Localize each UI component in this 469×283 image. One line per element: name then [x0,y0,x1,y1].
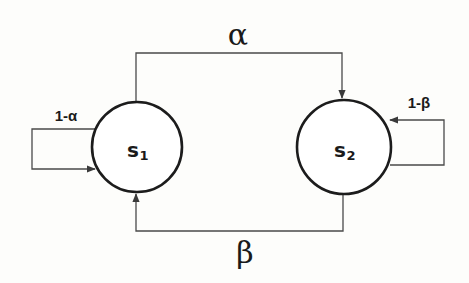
state-label-s1: s [127,138,139,162]
self-loop-s1 [32,129,96,169]
markov-chain-diagram: α β 1-α 1-β s 1 s 2 [0,0,469,283]
state-subscript-s1: 1 [139,148,148,163]
edge-label-one-minus-beta: 1-β [408,94,431,111]
edge-label-alpha: α [228,17,248,52]
self-loop-s2 [390,120,444,165]
edge-label-one-minus-alpha: 1-α [55,107,78,124]
state-subscript-s2: 2 [346,148,355,163]
edge-label-beta: β [236,235,253,270]
state-label-s2: s [334,138,346,162]
edge-s1-to-s2 [136,53,342,102]
node-s1: s 1 [92,102,182,192]
node-s2: s 2 [297,100,391,194]
edge-s2-to-s1 [136,194,343,231]
